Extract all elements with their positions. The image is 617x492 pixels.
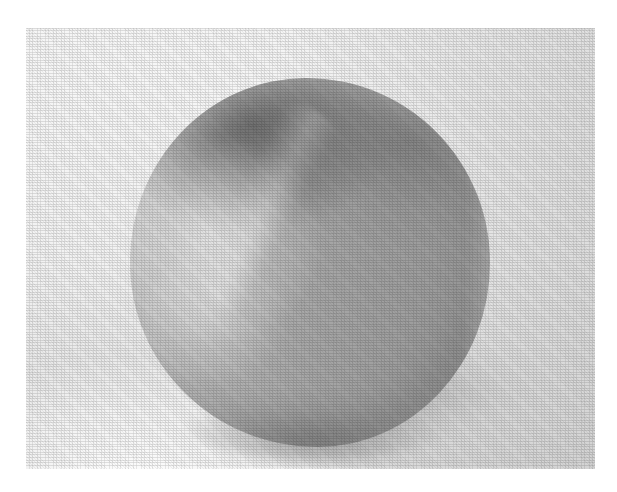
ball-object [130,78,490,447]
page-root [0,0,617,492]
grayscale-photograph [26,28,595,469]
ball-bottom-shading [173,365,461,461]
